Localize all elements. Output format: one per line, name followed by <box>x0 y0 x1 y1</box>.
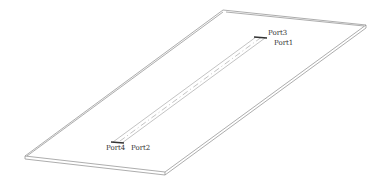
port1-label: Port1 <box>274 39 293 47</box>
substrate-side-left <box>25 25 366 175</box>
strip-line-center <box>118 38 261 143</box>
pcb-diagram: Port3 Port1 Port4 Port2 <box>0 0 383 184</box>
strip-line-outer-a <box>113 37 256 142</box>
substrate-top-bevel <box>226 12 364 26</box>
strip-line-outer-b <box>122 38 265 143</box>
port3-label: Port3 <box>268 29 287 37</box>
port4-label: Port4 <box>106 144 126 152</box>
port-marker-top <box>254 37 267 38</box>
port-marker-bottom <box>111 142 124 143</box>
substrate-left-bevel <box>27 12 223 156</box>
port2-label: Port2 <box>131 144 150 152</box>
substrate-top-face <box>25 10 366 172</box>
